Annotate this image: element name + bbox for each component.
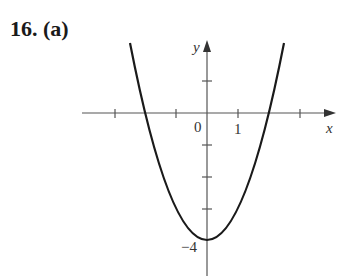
y-tick-label-neg4: −4 <box>181 239 197 255</box>
parabola-graph: y x 0 1 −4 <box>0 0 346 280</box>
x-tick-label-1: 1 <box>234 121 242 137</box>
x-axis-arrow-icon <box>324 109 336 117</box>
x-axis-label: x <box>325 120 333 136</box>
y-axis-label: y <box>191 39 200 55</box>
y-axis-arrow-icon <box>203 40 211 52</box>
origin-label: 0 <box>194 119 202 135</box>
